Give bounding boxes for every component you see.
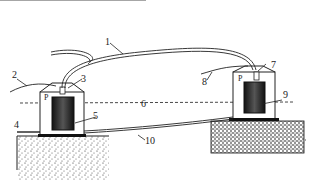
label-10: 10 [145, 135, 155, 146]
left-base [17, 136, 109, 180]
label-p-right: P [238, 74, 243, 83]
right-vessel [229, 66, 279, 121]
left-vessel [38, 83, 86, 137]
label-6: 6 [141, 98, 146, 109]
label-7: 7 [271, 59, 276, 70]
label-4: 4 [14, 119, 19, 130]
label-p-left: P [44, 93, 49, 102]
right-base [211, 121, 304, 153]
label-3: 3 [81, 73, 86, 84]
label-1: 1 [105, 36, 110, 47]
label-8: 8 [202, 76, 207, 87]
label-2: 2 [12, 69, 17, 80]
apparatus-diagram: 1 2 3 4 5 6 7 8 9 10 P P [0, 0, 315, 180]
label-9: 9 [283, 89, 288, 100]
label-5: 5 [93, 110, 98, 121]
